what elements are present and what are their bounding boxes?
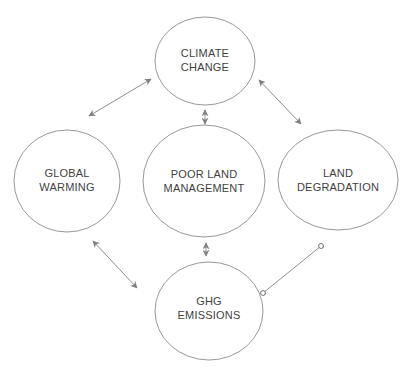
node-circle-climate-change (155, 17, 255, 105)
node-circle-land-degradation (278, 130, 398, 230)
diagram-canvas (0, 0, 411, 374)
edge-climate-change-land-degradation (259, 80, 301, 124)
node-circle-global-warming (14, 130, 120, 232)
edge-ghg-emissions-land-degradation (263, 246, 321, 293)
edge-global-warming-ghg-emissions (93, 241, 137, 288)
edge-global-warming-climate-change (89, 79, 151, 116)
node-circle-ghg-emissions (155, 262, 263, 360)
node-circle-poor-land-management (143, 125, 265, 237)
diagram-stage: CLIMATE CHANGE GLOBAL WARMING POOR LAND … (0, 0, 411, 374)
